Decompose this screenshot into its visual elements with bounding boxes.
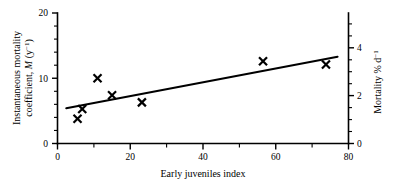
left-tick-label-20: 20 — [39, 8, 49, 18]
y-left-pre: coefficient, — [23, 69, 34, 117]
y-left-unit-open: (y — [23, 50, 35, 61]
right-axis-tick-labels: 0 2 4 — [357, 43, 362, 149]
figure-scatter-mortality-vs-juveniles: 0 10 20 0 2 4 — [0, 0, 396, 188]
y-axis-left-title-line2: coefficient, M (y−1) — [23, 39, 35, 117]
axis-group — [58, 13, 349, 144]
data-point-marker — [94, 74, 102, 82]
data-point-markers — [74, 57, 330, 122]
x-tick-label-80: 80 — [344, 152, 354, 162]
right-tick-label-2: 2 — [357, 91, 362, 101]
y-right-exponent: −1 — [372, 50, 380, 58]
y-axis-right-title: Mortality % d−1 — [372, 50, 383, 114]
data-point-marker — [138, 98, 146, 106]
x-axis-title: Early juveniles index — [161, 168, 246, 179]
left-tick-label-10: 10 — [39, 74, 49, 84]
x-axis-tick-labels: 0 20 40 60 80 — [55, 152, 353, 162]
x-axis-ticks — [58, 144, 349, 150]
chart-canvas: 0 10 20 0 2 4 — [0, 0, 396, 188]
y-right-pre: Mortality % d — [372, 58, 383, 114]
x-tick-label-20: 20 — [126, 152, 136, 162]
right-axis-ticks — [349, 24, 355, 144]
y-axis-left-title: Instantaneous mortality coefficient, M (… — [11, 31, 35, 125]
data-point-marker — [74, 115, 82, 123]
x-tick-label-0: 0 — [55, 152, 60, 162]
y-left-unit-close: ) — [23, 39, 35, 42]
data-point-marker — [108, 91, 116, 99]
y-axis-right-title-text: Mortality % d−1 — [372, 50, 383, 114]
left-axis-tick-labels: 0 10 20 — [39, 8, 49, 148]
left-tick-label-0: 0 — [43, 139, 48, 149]
data-point-marker — [259, 57, 267, 65]
right-tick-label-0: 0 — [357, 139, 362, 149]
y-axis-left-title-line1: Instantaneous mortality — [11, 31, 22, 125]
left-axis-ticks — [52, 13, 58, 144]
regression-line — [66, 57, 337, 109]
data-point-marker — [322, 61, 330, 69]
x-tick-label-40: 40 — [198, 152, 208, 162]
right-tick-label-4: 4 — [357, 43, 362, 53]
x-tick-label-60: 60 — [271, 152, 281, 162]
regression-line-group — [66, 57, 337, 109]
